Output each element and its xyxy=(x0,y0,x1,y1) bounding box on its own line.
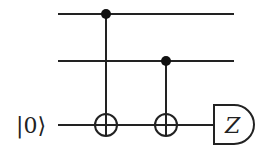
measurement-gate: Z xyxy=(214,105,254,144)
control-dot-1 xyxy=(101,9,111,19)
quantum-circuit: |0⟩ Z xyxy=(0,0,266,157)
control-dot-2 xyxy=(161,56,171,66)
cnot-gate-1 xyxy=(95,9,117,136)
measurement-basis-label: Z xyxy=(224,113,241,138)
ancilla-label: |0⟩ xyxy=(16,113,46,139)
cnot-gate-2 xyxy=(155,56,177,136)
